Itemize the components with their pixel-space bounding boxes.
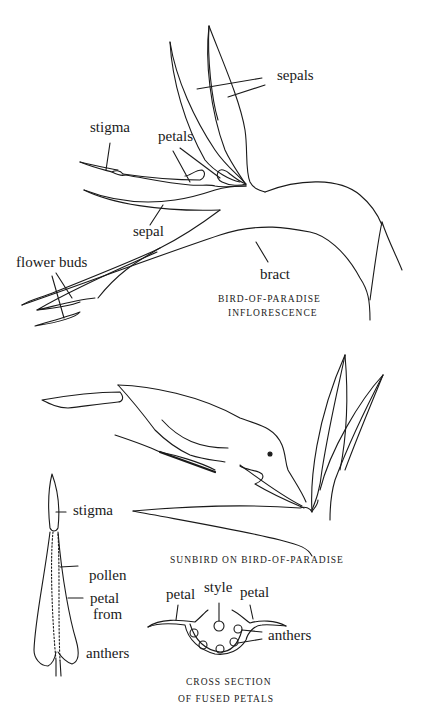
label-petal-left: petal xyxy=(166,587,195,602)
label-petal-side: petal xyxy=(90,591,119,606)
label-pollen-line1: pollen xyxy=(86,569,129,582)
inflorescence-leaders xyxy=(52,78,268,318)
caption-sunbird: SUNBIRD ON BIRD-OF-PARADISE xyxy=(170,555,344,565)
label-pollen-line3: anthers xyxy=(86,647,129,660)
label-anthers: anthers xyxy=(268,628,311,643)
label-petal-right: petal xyxy=(240,585,269,600)
label-flower-buds: flower buds xyxy=(16,255,87,270)
cross-section-drawing xyxy=(148,603,286,654)
caption-cross-section-line2: OF FUSED PETALS xyxy=(178,694,274,704)
label-pollen-line2: from xyxy=(86,608,129,621)
caption-inflorescence-line2: INFLORESCENCE xyxy=(228,308,318,318)
label-stigma-top: stigma xyxy=(90,120,130,135)
inflorescence-drawing xyxy=(22,26,402,326)
label-sepal: sepal xyxy=(133,224,164,239)
label-sepals: sepals xyxy=(277,68,314,83)
sunbird-drawing xyxy=(42,355,383,556)
caption-cross-section-line1: CROSS SECTION xyxy=(186,677,272,687)
label-petals: petals xyxy=(158,129,193,144)
illustration-drawings xyxy=(0,0,426,716)
label-pollen: pollen from anthers xyxy=(86,543,129,673)
caption-inflorescence-line1: BIRD-OF-PARADISE xyxy=(218,294,321,304)
label-bract: bract xyxy=(260,267,290,282)
label-stigma-bottom: stigma xyxy=(73,503,113,518)
label-style: style xyxy=(204,580,232,595)
